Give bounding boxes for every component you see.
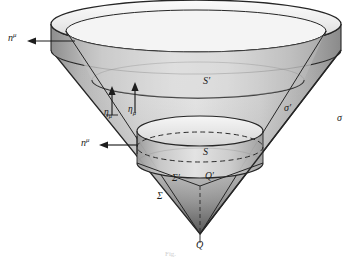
label-point-q-prime: Q′ [205, 172, 214, 182]
label-bigsigma-prime: Σ′ [172, 174, 180, 184]
label-eta-left: ημ [104, 108, 112, 118]
label-sigma: σ [337, 113, 342, 123]
label-normal-top: nμ [8, 33, 16, 43]
label-surface-s-prime: S′ [203, 76, 210, 86]
label-eta-right: ημ [128, 105, 136, 115]
inner-small-cone [137, 116, 263, 178]
light-cone-figure: nμ nμ ημ ημ S′ S σ′ σ Σ′ Σ Q′ Q Fig. [0, 0, 361, 258]
label-surface-s: S [203, 147, 208, 157]
label-point-q: Q [196, 240, 203, 250]
label-bigsigma: Σ [157, 192, 163, 202]
cone-diagram-svg [0, 0, 361, 258]
figure-caption: Fig. [165, 250, 176, 258]
label-sigma-prime: σ′ [284, 103, 291, 113]
label-normal-mid: nμ [81, 138, 89, 148]
